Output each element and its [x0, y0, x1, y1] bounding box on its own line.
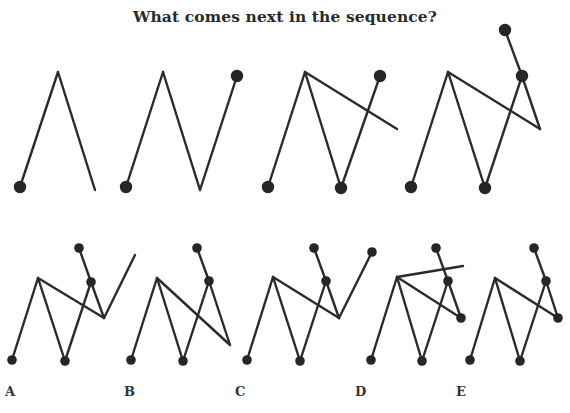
dot-endpoint [443, 276, 453, 286]
line-segment [247, 277, 273, 360]
dot-endpoint [479, 182, 491, 194]
line-segment [448, 72, 485, 188]
dot-endpoint [192, 243, 202, 253]
dot-endpoint [309, 243, 319, 253]
dot-endpoint [7, 355, 17, 365]
dot-endpoint [366, 355, 376, 365]
dot-endpoint [321, 276, 331, 286]
dot-endpoint [515, 356, 525, 366]
line-segment [131, 278, 157, 360]
option-label-b[interactable]: B [124, 384, 135, 399]
line-segment [126, 72, 163, 187]
dot-endpoint [204, 276, 214, 286]
option-label-a[interactable]: A [5, 384, 15, 399]
line-segment [197, 248, 209, 281]
sequence-figure-1 [14, 72, 95, 193]
line-segment [200, 76, 237, 190]
line-segment [397, 266, 463, 277]
dot-endpoint [516, 70, 528, 82]
option-label-c[interactable]: C [235, 384, 245, 399]
line-segment [505, 30, 522, 76]
line-segment [163, 72, 200, 190]
option-figure-e[interactable] [465, 243, 563, 366]
dot-endpoint [60, 356, 70, 366]
option-label-d[interactable]: D [355, 384, 366, 399]
dot-endpoint [262, 181, 274, 193]
line-segment [273, 277, 300, 361]
dot-endpoint [126, 355, 136, 365]
dot-endpoint [178, 356, 188, 366]
dot-endpoint [295, 356, 305, 366]
dot-endpoint [417, 356, 427, 366]
line-segment [371, 277, 397, 360]
dot-endpoint [553, 313, 563, 323]
line-segment [485, 76, 522, 188]
line-segment [522, 76, 540, 129]
dot-endpoint [541, 276, 551, 286]
dot-endpoint [14, 181, 26, 193]
dot-endpoint [405, 181, 417, 193]
option-figure-d[interactable] [366, 243, 466, 366]
line-segment [422, 281, 448, 361]
line-segment [38, 278, 65, 361]
line-segment [300, 281, 326, 361]
dot-endpoint [86, 277, 96, 287]
line-segment [104, 255, 135, 318]
sequence-figure-2 [120, 70, 243, 193]
dot-endpoint [465, 355, 475, 365]
options-row[interactable] [7, 243, 563, 366]
dot-endpoint [374, 70, 386, 82]
line-segment [436, 248, 448, 281]
line-segment [12, 278, 38, 360]
line-segment [314, 248, 326, 281]
dot-endpoint [367, 247, 377, 257]
line-segment [339, 252, 372, 318]
sequence-figure-4 [405, 24, 540, 194]
puzzle-canvas [0, 0, 570, 413]
sequence-row [14, 24, 540, 194]
line-segment [268, 72, 305, 187]
dot-endpoint [231, 70, 243, 82]
dot-endpoint [74, 243, 84, 253]
line-segment [470, 278, 495, 360]
dot-endpoint [431, 243, 441, 253]
dot-endpoint [499, 24, 511, 36]
dot-endpoint [456, 313, 466, 323]
line-segment [58, 72, 95, 190]
line-segment [534, 248, 546, 281]
option-label-e[interactable]: E [456, 384, 466, 399]
dot-endpoint [242, 355, 252, 365]
line-segment [520, 281, 546, 361]
sequence-figure-3 [262, 70, 397, 194]
option-figure-c[interactable] [242, 243, 377, 366]
line-segment [341, 76, 380, 188]
line-segment [305, 72, 341, 188]
dot-endpoint [120, 181, 132, 193]
dot-endpoint [335, 182, 347, 194]
line-segment [20, 72, 58, 187]
option-figure-a[interactable] [7, 243, 135, 366]
dot-endpoint [529, 243, 539, 253]
line-segment [411, 72, 448, 187]
option-figure-b[interactable] [126, 243, 230, 366]
line-segment [65, 282, 91, 361]
line-segment [79, 248, 91, 282]
